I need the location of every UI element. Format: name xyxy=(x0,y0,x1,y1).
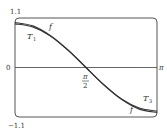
x-label-pi-half-num: π xyxy=(82,73,88,81)
x-label-pi-half-den: 2 xyxy=(83,82,87,90)
y-label-bottom: −1.1 xyxy=(8,122,25,130)
curve-t3 xyxy=(86,68,157,112)
label-f-left: f xyxy=(48,22,54,31)
taylor-polynomial-plot: 1.1 0 −1.1 π 2 π f T 1 T 3 f xyxy=(0,0,167,133)
label-t3-sub: 3 xyxy=(149,98,152,104)
x-label-pi: π xyxy=(158,64,164,72)
y-label-zero: 0 xyxy=(6,64,10,72)
y-label-top: 1.1 xyxy=(10,8,21,16)
label-t1-sub: 1 xyxy=(33,36,36,42)
